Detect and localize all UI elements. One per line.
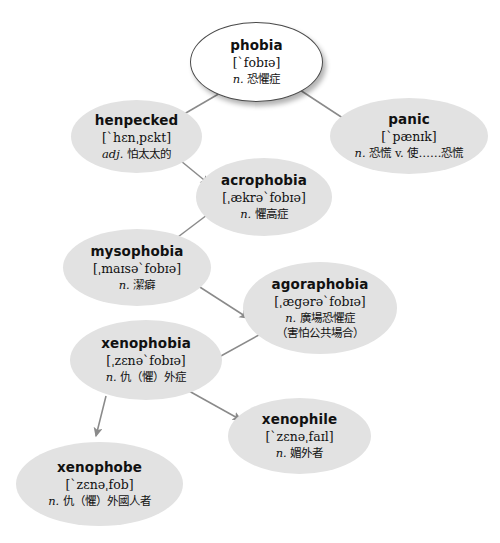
node-part-of-speech: n. — [48, 494, 59, 508]
node-gloss-note: （害怕公共場合） — [276, 326, 364, 341]
node-part-of-speech: n. — [355, 146, 366, 160]
node-gloss-text: 怕太太的 — [127, 147, 171, 161]
node-gloss-text: 仇（懼）外國人者 — [63, 494, 151, 508]
node-part-of-speech: n. — [285, 311, 296, 325]
node-word: agoraphobia — [272, 276, 369, 293]
node-ipa: [ˌægərəˋfobɪə] — [274, 294, 366, 310]
node-gloss-text: 仇（懼）外症 — [120, 370, 186, 384]
node-ipa: [ˌzɛnəˋfobɪə] — [106, 353, 186, 369]
node-gloss: n. 恐懼症 — [233, 72, 281, 87]
node-ipa: [ˋhɛnˌpɛkt] — [102, 130, 171, 146]
node-gloss: n. 潔癖 — [119, 278, 156, 293]
node-gloss-text: 潔癖 — [133, 278, 155, 292]
edge-mysophobia-to-agoraphobia — [192, 282, 248, 318]
node-word: mysophobia — [90, 243, 183, 260]
node-gloss-text: 恐慌 v. 使……恐慌 — [369, 146, 463, 160]
node-agoraphobia[interactable]: agoraphobia[ˌægərəˋfobɪə]n. 廣場恐懼症（害怕公共場合… — [243, 262, 397, 354]
node-gloss: n. 仇（懼）外國人者 — [48, 494, 151, 509]
node-word: acrophobia — [221, 172, 307, 189]
node-gloss-text: 廣場恐懼症 — [300, 311, 355, 325]
node-ipa: [ˋzɛnəˌfob] — [65, 477, 133, 493]
node-xenophile[interactable]: xenophile[ˋzɛnəˌfaɪl]n. 媚外者 — [228, 398, 371, 474]
edge-xenophobia-to-xenophobe — [96, 396, 106, 436]
node-part-of-speech: n. — [233, 72, 244, 86]
node-gloss-text: 恐懼症 — [247, 72, 280, 86]
node-part-of-speech: n. — [276, 446, 287, 460]
node-acrophobia[interactable]: acrophobia[ˌækrəˋfobɪə]n. 懼高症 — [196, 158, 332, 236]
node-word: panic — [388, 111, 430, 128]
node-word: phobia — [230, 37, 283, 54]
node-gloss: n. 恐慌 v. 使……恐慌 — [355, 146, 464, 161]
node-xenophobe[interactable]: xenophobe[ˋzɛnəˌfob]n. 仇（懼）外國人者 — [16, 442, 183, 526]
node-word: henpecked — [95, 112, 179, 129]
node-gloss: n. 懼高症 — [240, 207, 288, 222]
node-gloss-text: 媚外者 — [290, 446, 323, 460]
word-family-diagram: phobia[ˋfobɪə]n. 恐懼症henpecked[ˋhɛnˌpɛkt]… — [0, 0, 500, 543]
node-ipa: [ˋpænɪk] — [381, 129, 436, 145]
node-gloss: adj. 怕太太的 — [102, 147, 171, 162]
node-word: xenophobe — [57, 459, 142, 476]
node-part-of-speech: n. — [240, 207, 251, 221]
node-phobia[interactable]: phobia[ˋfobɪə]n. 恐懼症 — [190, 22, 323, 102]
node-gloss: n. 廣場恐懼症 — [285, 311, 355, 326]
node-ipa: [ˋzɛnəˌfaɪl] — [265, 429, 333, 445]
node-part-of-speech: n. — [119, 278, 130, 292]
node-gloss: n. 仇（懼）外症 — [106, 370, 187, 385]
node-part-of-speech: n. — [106, 370, 117, 384]
node-henpecked[interactable]: henpecked[ˋhɛnˌpɛkt]adj. 怕太太的 — [71, 100, 202, 173]
node-part-of-speech: adj. — [102, 147, 123, 161]
node-ipa: [ˌækrəˋfobɪə] — [222, 190, 306, 206]
node-word: xenophobia — [101, 335, 191, 352]
node-panic[interactable]: panic[ˋpænɪk]n. 恐慌 v. 使……恐慌 — [330, 98, 488, 174]
node-word: xenophile — [262, 411, 337, 428]
node-gloss-text: 懼高症 — [255, 207, 288, 221]
node-gloss: n. 媚外者 — [276, 446, 324, 461]
node-ipa: [ˌmaɪsəˋfobɪə] — [93, 261, 181, 277]
node-xenophobia[interactable]: xenophobia[ˌzɛnəˋfobɪə]n. 仇（懼）外症 — [70, 320, 222, 400]
node-ipa: [ˋfobɪə] — [233, 55, 281, 71]
node-mysophobia[interactable]: mysophobia[ˌmaɪsəˋfobɪə]n. 潔癖 — [63, 229, 211, 306]
